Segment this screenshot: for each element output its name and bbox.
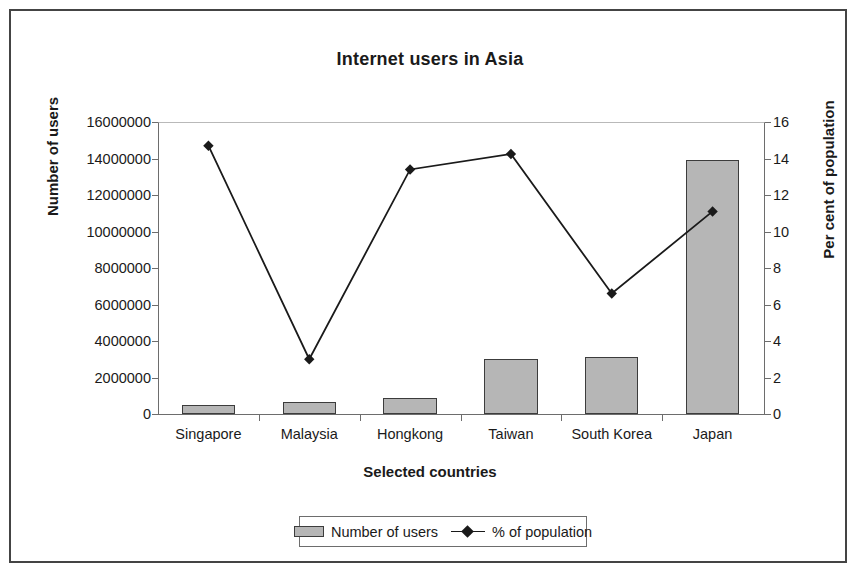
- x-axis-category-labels: SingaporeMalaysiaHongkongTaiwanSouth Kor…: [158, 426, 763, 442]
- legend-item-percent-of-population: % of population: [451, 524, 592, 540]
- chart-legend: Number of users % of population: [299, 516, 587, 547]
- y-axis-left-tick-label: 14000000: [55, 151, 151, 167]
- y-axis-right-tick-label: 10: [773, 224, 803, 240]
- y-axis-left-ticks: 0200000040000006000000800000010000000120…: [51, 122, 151, 414]
- y-axis-right-tick-mark: [765, 305, 771, 306]
- chart-title: Internet users in Asia: [11, 49, 849, 70]
- x-axis-category-label: Taiwan: [460, 426, 561, 442]
- line-data-point-marker: [304, 354, 314, 364]
- x-axis-baseline: [158, 414, 765, 415]
- line-data-point-marker: [203, 141, 213, 151]
- y-axis-left-tick-mark: [152, 268, 158, 269]
- y-axis-left-tick-label: 6000000: [55, 297, 151, 313]
- x-axis-title: Selected countries: [11, 463, 849, 480]
- y-axis-right-title: Per cent of population: [820, 60, 837, 300]
- y-axis-right-tick-mark: [765, 341, 771, 342]
- legend-line-swatch-icon: [451, 526, 485, 538]
- y-axis-right-tick-mark: [765, 195, 771, 196]
- y-axis-right-tick-mark: [765, 414, 771, 415]
- x-axis-category-label: Japan: [662, 426, 763, 442]
- line-data-point-marker: [405, 164, 415, 174]
- legend-bar-swatch-icon: [294, 526, 324, 537]
- x-axis-category-label: Malaysia: [259, 426, 360, 442]
- x-axis-tick-mark: [360, 414, 361, 421]
- y-axis-right-tick-label: 6: [773, 297, 803, 313]
- y-axis-right-tick-mark: [765, 159, 771, 160]
- y-axis-left-tick-mark: [152, 305, 158, 306]
- x-axis-tick-mark: [259, 414, 260, 421]
- y-axis-left-tick-mark: [152, 341, 158, 342]
- y-axis-left-tick-label: 16000000: [55, 114, 151, 130]
- y-axis-left-tick-label: 10000000: [55, 224, 151, 240]
- x-axis-category-label: South Korea: [561, 426, 662, 442]
- x-axis-tick-mark: [461, 414, 462, 421]
- y-axis-left-tick-mark: [152, 122, 158, 123]
- y-axis-right-tick-mark: [765, 268, 771, 269]
- y-axis-left-tick-mark: [152, 159, 158, 160]
- y-axis-right-tick-label: 4: [773, 333, 803, 349]
- y-axis-left-tick-mark: [152, 414, 158, 415]
- y-axis-right-ticks: 0246810121416: [773, 122, 813, 414]
- line-series-layer: [158, 122, 763, 414]
- y-axis-right-tick-label: 2: [773, 370, 803, 386]
- y-axis-left-tick-label: 12000000: [55, 187, 151, 203]
- y-axis-left-tick-mark: [152, 378, 158, 379]
- y-axis-right-tick-mark: [765, 122, 771, 123]
- y-axis-left-tick-mark: [152, 195, 158, 196]
- y-axis-left-tick-label: 2000000: [55, 370, 151, 386]
- line-path: [208, 146, 712, 360]
- y-axis-left-tick-label: 4000000: [55, 333, 151, 349]
- y-axis-right-tick-label: 14: [773, 151, 803, 167]
- y-axis-right-tick-label: 8: [773, 260, 803, 276]
- y-axis-left-tick-label: 0: [55, 406, 151, 422]
- chart-frame: Internet users in Asia Number of users P…: [9, 9, 847, 563]
- y-axis-left-tick-mark: [152, 232, 158, 233]
- y-axis-right-tick-label: 16: [773, 114, 803, 130]
- legend-label-percent-of-population: % of population: [492, 524, 592, 540]
- y-axis-right-tick-label: 12: [773, 187, 803, 203]
- x-axis-category-label: Singapore: [158, 426, 259, 442]
- x-axis-tick-mark: [662, 414, 663, 421]
- x-axis-category-label: Hongkong: [360, 426, 461, 442]
- y-axis-right-tick-label: 0: [773, 406, 803, 422]
- legend-item-number-of-users: Number of users: [294, 524, 438, 540]
- x-axis-tick-mark: [561, 414, 562, 421]
- y-axis-right-tick-mark: [765, 232, 771, 233]
- y-axis-left-tick-label: 8000000: [55, 260, 151, 276]
- y-axis-right-tick-mark: [765, 378, 771, 379]
- legend-label-number-of-users: Number of users: [331, 524, 438, 540]
